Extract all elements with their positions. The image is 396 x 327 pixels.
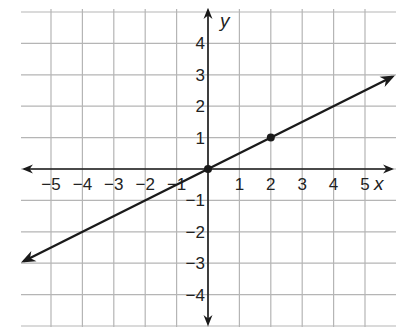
y-tick-label: 2 (196, 97, 205, 116)
y-tick-label: −2 (186, 223, 205, 242)
y-axis-label: y (218, 10, 231, 31)
coordinate-plane: −5−4−3−2−1123454321−1−2−3−4 x y (0, 0, 396, 327)
x-tick-label: 5 (360, 175, 369, 194)
x-tick-label: −5 (41, 175, 60, 194)
y-tick-label: 4 (196, 34, 205, 53)
x-tick-label: −3 (104, 175, 123, 194)
x-tick-label: 1 (235, 175, 244, 194)
x-tick-label: 3 (297, 175, 306, 194)
data-point (204, 165, 212, 173)
x-tick-label: 4 (329, 175, 338, 194)
x-tick-label: −2 (136, 175, 155, 194)
y-tick-label: −1 (186, 191, 205, 210)
y-tick-label: 1 (196, 129, 205, 148)
y-tick-label: −3 (186, 254, 205, 273)
y-tick-label: −4 (186, 286, 205, 305)
data-point (267, 134, 275, 142)
x-tick-label: 2 (266, 175, 275, 194)
x-tick-label: −4 (73, 175, 92, 194)
x-axis-label: x (373, 173, 385, 194)
y-tick-label: 3 (196, 66, 205, 85)
